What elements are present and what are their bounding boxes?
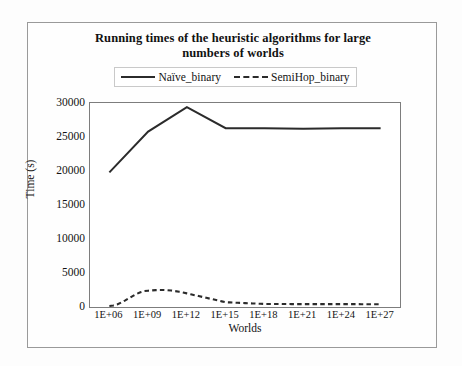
chart-page: Running times of the heuristic algorithm…: [0, 0, 462, 366]
y-axis-tick-labels: 050001000015000200002500030000: [33, 102, 85, 306]
plot-svg: [90, 103, 400, 307]
y-axis-tick-label: 20000: [37, 164, 85, 176]
legend-label-semihop-binary: SemiHop_binary: [271, 71, 350, 83]
x-axis-tick-label: 1E+18: [249, 309, 277, 320]
x-axis-tick-label: 1E+09: [133, 309, 161, 320]
solid-line-icon: [121, 76, 155, 78]
legend-item-naive-binary: Naïve_binary: [121, 71, 221, 83]
chart-title-line-2: numbers of worlds: [58, 46, 408, 61]
y-axis-tick-label: 5000: [37, 266, 85, 278]
x-axis-tick-label: 1E+27: [366, 309, 394, 320]
y-axis-tick-label: 25000: [37, 130, 85, 142]
y-axis-tick-label: 15000: [37, 198, 85, 210]
series-line-naive-binary: [109, 107, 380, 172]
x-axis-tick-labels: 1E+061E+091E+121E+151E+181E+211E+241E+27: [89, 309, 401, 323]
x-axis-tick-label: 1E+15: [211, 309, 239, 320]
x-axis-title: Worlds: [89, 322, 401, 334]
chart-figure-frame: Running times of the heuristic algorithm…: [27, 22, 437, 348]
legend-item-semihop-binary: SemiHop_binary: [234, 71, 350, 83]
y-axis-tick-label: 0: [37, 300, 85, 312]
dashed-line-icon: [234, 76, 268, 78]
y-axis-tick-label: 10000: [37, 232, 85, 244]
chart-title: Running times of the heuristic algorithm…: [58, 31, 408, 61]
y-axis-tick-label: 30000: [37, 96, 85, 108]
x-axis-tick-label: 1E+24: [327, 309, 355, 320]
chart-legend: Naïve_binary SemiHop_binary: [114, 67, 357, 87]
x-axis-tick-label: 1E+21: [288, 309, 316, 320]
series-line-semihop-binary: [109, 290, 380, 306]
x-axis-tick-label: 1E+06: [94, 309, 122, 320]
x-axis-tick-label: 1E+12: [172, 309, 200, 320]
plot-area: [89, 102, 401, 308]
legend-label-naive-binary: Naïve_binary: [158, 71, 221, 83]
chart-title-line-1: Running times of the heuristic algorithm…: [58, 31, 408, 46]
